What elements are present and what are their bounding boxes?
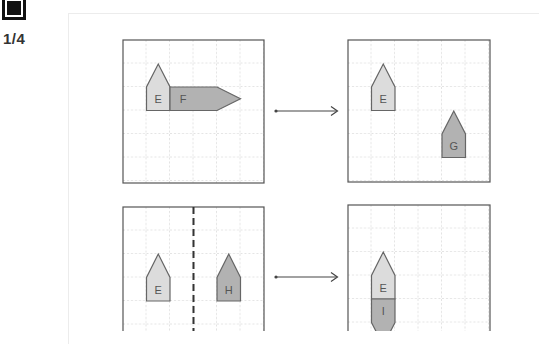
svg-text:I: I <box>382 305 385 317</box>
svg-text:H: H <box>225 284 233 296</box>
svg-text:E: E <box>380 93 387 105</box>
svg-text:F: F <box>180 93 187 105</box>
svg-text:E: E <box>155 284 162 296</box>
svg-text:E: E <box>380 282 387 294</box>
arrow-2 <box>274 273 337 282</box>
grid-before-1: E F <box>123 40 264 183</box>
grid-after-1: E G <box>348 40 490 182</box>
svg-text:G: G <box>449 140 458 152</box>
grid-before-2: E H <box>123 207 264 331</box>
arrow-1 <box>274 107 337 116</box>
svg-text:E: E <box>155 93 162 105</box>
grid-after-2: E I <box>348 205 490 331</box>
